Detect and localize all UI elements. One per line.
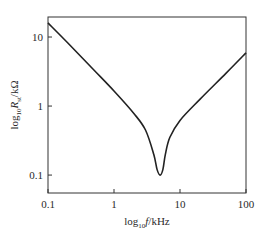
impedance-curve — [48, 23, 246, 175]
impedance-chart: 0.1110100 0.1110 log10f/kHz log10Rst/kΩ — [0, 0, 270, 238]
x-axis-ticks: 0.1110100 — [41, 189, 255, 210]
x-tick-label: 0.1 — [41, 198, 55, 210]
plot-frame — [48, 17, 246, 193]
y-tick-label: 0.1 — [29, 169, 43, 181]
x-tick-label: 10 — [175, 198, 187, 210]
y-axis-ticks: 0.1110 — [29, 31, 52, 181]
x-tick-label: 1 — [111, 198, 117, 210]
x-tick-label: 100 — [238, 198, 255, 210]
y-tick-label: 10 — [32, 31, 44, 43]
y-tick-label: 1 — [38, 100, 44, 112]
y-axis-label: log10Rst/kΩ — [8, 80, 23, 129]
plot-border — [48, 17, 246, 193]
x-axis-label: log10f/kHz — [124, 215, 170, 230]
